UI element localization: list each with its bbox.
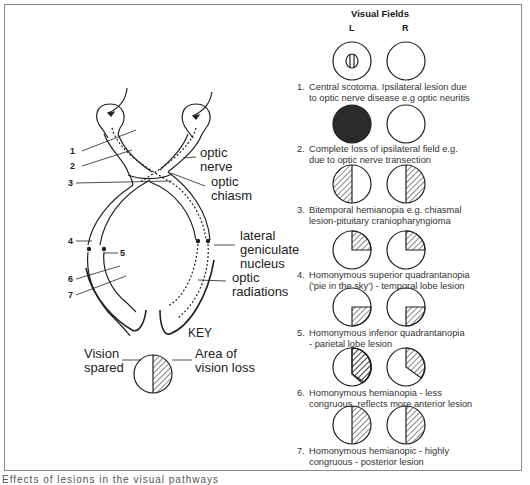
label-optic-chiasm: optic chiasm <box>211 175 252 203</box>
lesion-marker-3: 3 <box>68 178 73 188</box>
key-title: KEY <box>188 326 212 340</box>
lesion-marker-2: 2 <box>70 161 75 171</box>
label-optic-radiations: optic radiations <box>232 271 288 299</box>
visual-field-caption-5: 5.Homonymous inferior quadrantanopia - p… <box>297 328 522 350</box>
key-vision-spared-label: Vision spared <box>84 347 124 375</box>
visual-field-caption-6: 6.Homonymous hemianopia - less congruous… <box>297 388 522 410</box>
lesion-marker-5: 5 <box>120 248 125 258</box>
lesion-marker-4: 4 <box>68 236 73 246</box>
key-circle <box>122 355 192 393</box>
lesion-marker-6: 6 <box>68 274 73 284</box>
visual-field-caption-1: 1.Central scotoma. Ipsilateral lesion du… <box>297 82 522 104</box>
visual-field-caption-3: 3.Bitemporal hemianopia e.g. chiasmal le… <box>297 205 522 227</box>
visual-field-caption-7: 7.Homonymous hemianopic - highly congruo… <box>297 446 522 468</box>
lesion-marker-1: 1 <box>70 146 75 156</box>
label-lateral-geniculate-nucleus: lateral geniculate nucleus <box>240 229 299 271</box>
right-eye-header: R <box>402 23 409 33</box>
visual-field-caption-4: 4.Homonymous superior quadrantanopia ('p… <box>297 270 522 292</box>
figure-caption-cutoff: Effects of lesions in the visual pathway… <box>2 474 219 485</box>
left-eye-header: L <box>349 23 355 33</box>
label-optic-nerve: optic nerve <box>200 146 233 174</box>
lesion-marker-7: 7 <box>68 290 73 300</box>
visual-fields-title: Visual Fields <box>330 8 430 19</box>
key-vision-loss-label: Area of vision loss <box>195 347 255 375</box>
optic-pathway-drawing <box>86 88 214 336</box>
visual-field-caption-2: 2.Complete loss of ipsilateral field e.g… <box>297 144 522 166</box>
